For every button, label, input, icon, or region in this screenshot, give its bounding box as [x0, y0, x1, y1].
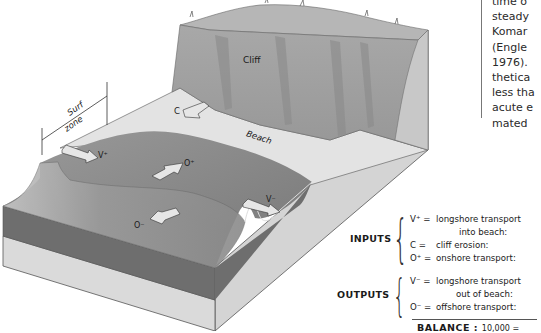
output-v-minus-text2: out of beach: — [456, 289, 513, 299]
input-v-plus-text: longshore transport — [436, 214, 521, 224]
output-o-minus-symbol: O⁻ = — [410, 302, 431, 312]
balance-row: BALANCE : 10,000 = — [417, 322, 519, 333]
balance-value: 10,000 = — [482, 324, 519, 333]
output-v-minus-symbol: V⁻ = — [410, 276, 430, 286]
inputs-brace: { — [393, 212, 408, 264]
outputs-brace: { — [393, 274, 406, 318]
input-v-plus-symbol: V⁺ = — [410, 214, 430, 224]
input-c-text: cliff erosion: — [436, 240, 489, 250]
input-v-plus-text2: into beach: — [459, 227, 507, 237]
balance-label: BALANCE : — [417, 322, 478, 333]
input-o-plus-text: onshore transport: — [436, 253, 516, 263]
inputs-label: INPUTS — [350, 233, 391, 244]
outputs-label: OUTPUTS — [337, 289, 389, 300]
output-v-minus-text: longshore transport — [436, 276, 521, 286]
input-c-symbol: C = — [410, 240, 426, 250]
input-o-plus-symbol: O⁺ = — [410, 253, 431, 263]
output-o-minus-text: offshore transport: — [436, 302, 516, 312]
balance-divider — [412, 319, 537, 320]
